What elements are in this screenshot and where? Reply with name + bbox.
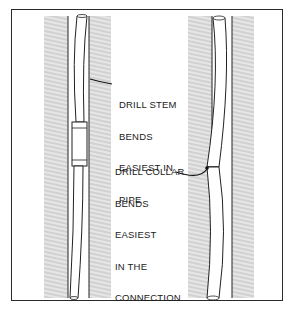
- label-line: EASIEST: [115, 230, 185, 241]
- drill-collar-label: DRILL COLLAR BENDS EASIEST IN THE CONNEC…: [115, 146, 185, 311]
- left-borehole: [44, 15, 112, 300]
- left-formation-wall-left: [44, 16, 68, 298]
- drill-stem-lower: [70, 166, 83, 298]
- right-formation-wall-right: [232, 16, 254, 298]
- right-borehole: [176, 16, 254, 300]
- left-formation-wall-right: [89, 16, 111, 298]
- label-line: IN THE: [115, 262, 185, 273]
- label-line: DRILL STEM: [119, 100, 177, 111]
- label-line: CONNECTION: [115, 293, 185, 304]
- label-line: BENDS: [119, 132, 177, 143]
- drill-stem-upper: [74, 16, 87, 122]
- tool-joint: [72, 122, 87, 166]
- label-line: BENDS: [115, 199, 185, 210]
- label-line: DRILL COLLAR: [115, 167, 185, 178]
